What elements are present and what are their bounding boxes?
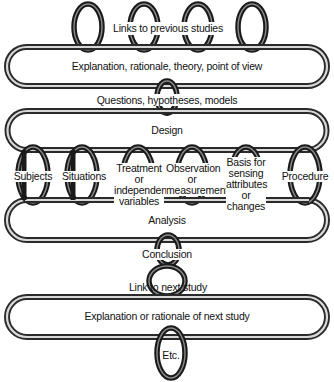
label-conclusion: Conclusion (137, 249, 197, 260)
research-chain-diagram: Links to previous studies Explanation, r… (0, 0, 334, 382)
label-design: Design (7, 125, 327, 136)
label-observation: Observation or measurement (166, 163, 218, 196)
label-procedure: Procedure (280, 171, 330, 182)
label-basis: Basis for sensing attributes or changes (226, 157, 266, 212)
label-subjects: Subjects (13, 171, 53, 182)
label-analysis: Analysis (7, 215, 327, 226)
label-explanation: Explanation, rationale, theory, point of… (7, 61, 327, 72)
label-links-previous-studies: Links to previous studies (112, 23, 224, 34)
label-treatment: Treatment or independent variables (114, 163, 164, 207)
label-next-explanation: Explanation or rationale of next study (7, 311, 327, 322)
label-situations: Situations (62, 171, 104, 182)
label-link-next-study: Link to next study (122, 282, 214, 293)
label-etc: Etc. (151, 350, 191, 361)
label-questions: Questions, hypotheses, models (80, 95, 254, 106)
